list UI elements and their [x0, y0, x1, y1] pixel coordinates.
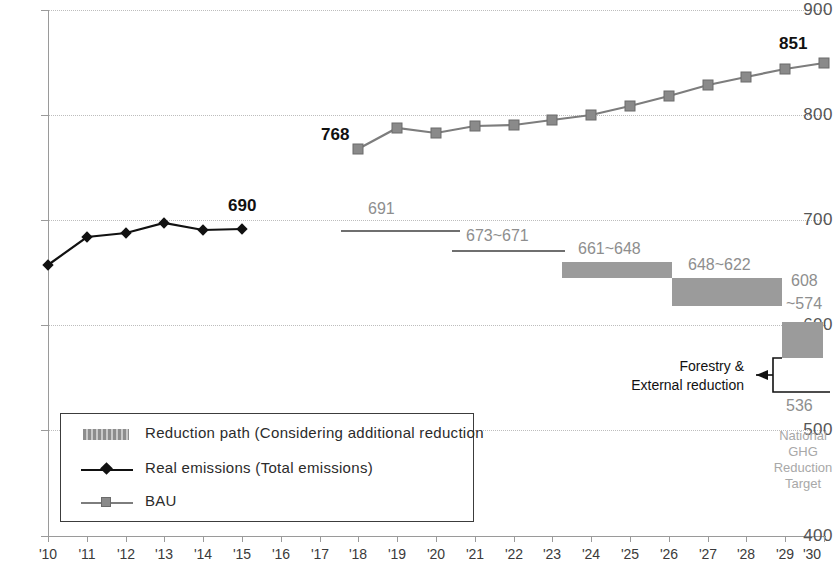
diamond-marker-icon	[100, 462, 113, 475]
bau-line	[358, 63, 824, 149]
real-emissions-line	[48, 223, 242, 265]
real-emissions-markers	[42, 217, 247, 270]
chart-legend: Reduction path (Considering additional r…	[60, 413, 474, 522]
bau-markers	[353, 58, 829, 154]
legend-item-real-emissions: Real emissions (Total emissions)	[75, 459, 459, 481]
legend-label-real-emissions: Real emissions (Total emissions)	[145, 459, 373, 476]
ghg-emissions-chart: 900 800 700 600 500 400 '10 '11 '12 '13 …	[0, 0, 833, 580]
forestry-arrow-head	[756, 370, 768, 380]
reduction-path-swatch-icon	[83, 429, 129, 440]
legend-label-reduction-path: Reduction path (Considering additional r…	[145, 424, 484, 441]
legend-label-bau: BAU	[145, 492, 177, 509]
legend-item-bau: BAU	[75, 492, 459, 514]
legend-item-reduction-path: Reduction path (Considering additional r…	[75, 424, 459, 446]
square-marker-icon	[101, 497, 111, 507]
forestry-bracket	[773, 358, 782, 392]
